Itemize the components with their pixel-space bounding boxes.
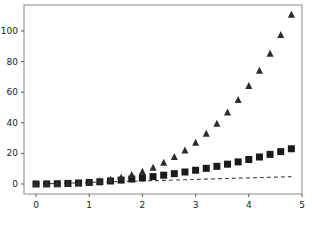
x-tick-label: 1 [86, 200, 92, 210]
y-axis: 020406080100 [1, 26, 24, 189]
x-tick-label: 4 [246, 200, 252, 210]
square-marker [181, 169, 188, 176]
square-marker [288, 145, 295, 152]
y-tick-label: 40 [7, 118, 19, 128]
square-marker [267, 151, 274, 158]
square-marker [203, 165, 210, 172]
x-tick-label: 0 [33, 200, 39, 210]
square-marker [171, 170, 178, 177]
y-tick-label: 0 [12, 179, 18, 189]
square-marker [277, 148, 284, 155]
square-marker [150, 173, 157, 180]
y-tick-label: 80 [7, 57, 19, 67]
y-tick-label: 100 [1, 26, 18, 36]
square-marker [245, 156, 252, 163]
square-marker [139, 174, 146, 181]
square-marker [235, 158, 242, 165]
square-marker [160, 172, 167, 179]
square-marker [256, 154, 263, 161]
square-marker [224, 161, 231, 168]
x-axis: 012345 [33, 194, 305, 210]
x-tick-label: 2 [140, 200, 146, 210]
y-tick-label: 20 [7, 148, 19, 158]
x-tick-label: 5 [299, 200, 305, 210]
chart: 020406080100 012345 [0, 0, 312, 230]
x-tick-label: 3 [193, 200, 199, 210]
square-marker [192, 167, 199, 174]
y-tick-label: 60 [7, 87, 19, 97]
square-marker [213, 163, 220, 170]
